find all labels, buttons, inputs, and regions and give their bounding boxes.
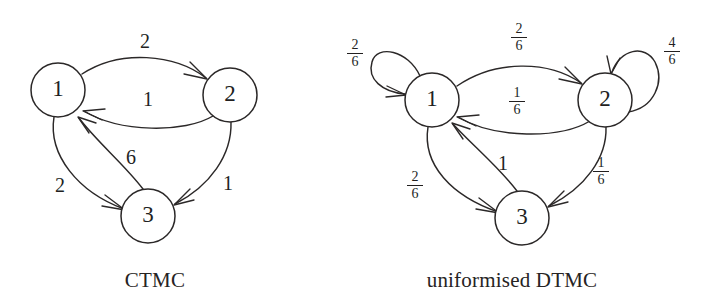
ctmc-edge-label-2-to-3: 1 xyxy=(223,172,233,194)
ctmc-node-3-label: 3 xyxy=(142,202,154,227)
dtmc-edge-1-to-3 xyxy=(427,127,499,213)
dtmc-edge-1-to-2-denominator: 6 xyxy=(508,38,530,53)
dtmc-edge-1-to-2-path xyxy=(457,66,581,86)
ctmc-edge-2-to-1 xyxy=(83,109,213,128)
dtmc-self-loop-1-fraction: 2 6 xyxy=(344,38,366,69)
dtmc-node-1-label: 1 xyxy=(426,86,438,111)
dtmc-node-2[interactable]: 2 xyxy=(578,73,632,127)
dtmc-edge-2-to-3-numerator: 1 xyxy=(590,156,612,171)
dtmc-self-loop-2-numerator: 4 xyxy=(661,36,683,51)
ctmc-edge-2-to-3-arrowhead xyxy=(174,189,194,205)
dtmc-edge-1-to-2 xyxy=(457,66,582,86)
ctmc-node-1[interactable]: 1 xyxy=(31,63,85,117)
ctmc-edge-label-1-to-3: 2 xyxy=(55,174,65,196)
dtmc-self-loop-node-1-arrowhead xyxy=(386,86,406,97)
ctmc-node-3[interactable]: 3 xyxy=(121,189,175,243)
ctmc-node-2-label: 2 xyxy=(224,81,236,106)
dtmc-self-loop-2-denominator: 6 xyxy=(661,52,683,67)
ctmc-node-2[interactable]: 2 xyxy=(203,68,257,122)
dtmc-edge-1-to-3-fraction: 2 6 xyxy=(404,170,426,201)
dtmc-edge-1-to-2-fraction: 2 6 xyxy=(508,22,530,53)
dtmc-edge-1-to-3-path xyxy=(427,127,498,212)
dtmc-edge-1-to-2-arrowhead xyxy=(559,67,582,84)
dtmc-node-3-label: 3 xyxy=(516,204,528,229)
dtmc-edge-label-3-to-1: 1 xyxy=(498,152,508,174)
dtmc-self-loop-node-2-arrowhead xyxy=(607,56,620,74)
ctmc-node-1-label: 1 xyxy=(52,76,64,101)
ctmc-panel: 1 2 3 2 1 2 6 1 xyxy=(31,30,257,243)
ctmc-edge-label-1-to-2: 2 xyxy=(140,30,150,52)
ctmc-caption: CTMC xyxy=(115,268,195,293)
dtmc-edge-1-to-2-numerator: 2 xyxy=(508,22,530,37)
markov-chain-figure: 1 2 3 2 1 2 6 1 xyxy=(0,0,706,307)
ctmc-edge-label-3-to-1: 6 xyxy=(126,146,136,168)
dtmc-edge-2-to-1-numerator: 1 xyxy=(506,86,528,101)
dtmc-edge-1-to-3-numerator: 2 xyxy=(404,170,426,185)
dtmc-caption: uniformised DTMC xyxy=(402,268,622,293)
ctmc-edge-2-to-1-arrowhead xyxy=(83,109,105,120)
dtmc-node-1[interactable]: 1 xyxy=(405,73,459,127)
dtmc-edge-2-to-3-denominator: 6 xyxy=(590,172,612,187)
dtmc-edge-2-to-1-path xyxy=(458,117,590,134)
dtmc-edge-2-to-1-arrowhead xyxy=(457,115,479,126)
dtmc-edge-1-to-3-denominator: 6 xyxy=(404,186,426,201)
ctmc-edge-2-to-1-path xyxy=(84,111,213,128)
dtmc-self-loop-1-numerator: 2 xyxy=(344,38,366,53)
dtmc-self-loop-1-denominator: 6 xyxy=(344,54,366,69)
dtmc-self-loop-2-fraction: 4 6 xyxy=(661,36,683,67)
dtmc-edge-2-to-1-fraction: 1 6 xyxy=(506,86,528,117)
dtmc-panel: 1 2 3 1 xyxy=(371,51,659,245)
dtmc-edge-2-to-1 xyxy=(457,115,590,134)
dtmc-edge-2-to-1-denominator: 6 xyxy=(506,102,528,117)
dtmc-edge-2-to-3-arrowhead xyxy=(548,191,568,207)
dtmc-node-2-label: 2 xyxy=(599,86,611,111)
dtmc-edge-2-to-3-fraction: 1 6 xyxy=(590,156,612,187)
dtmc-node-3[interactable]: 3 xyxy=(495,191,549,245)
ctmc-edge-1-to-2 xyxy=(82,57,207,79)
ctmc-edge-label-2-to-1: 1 xyxy=(143,88,153,110)
